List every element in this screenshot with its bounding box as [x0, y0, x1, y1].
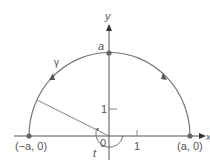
- semicircle-diagram: y x a γ 1 1 0 t (−a, 0) (a, 0): [0, 0, 210, 164]
- origin-label: 0: [100, 137, 106, 149]
- right-point-label: (a, 0): [177, 140, 203, 152]
- curve-label: γ: [54, 57, 59, 68]
- angle-label: t: [93, 147, 97, 159]
- x-tick-label: 1: [134, 140, 140, 152]
- radius-line: [37, 100, 109, 136]
- point-left: [26, 133, 31, 138]
- left-point-label: (−a, 0): [15, 140, 47, 152]
- point-top: [106, 50, 111, 55]
- curve-arrow-left-icon: [49, 73, 55, 80]
- x-axis-label: x: [205, 132, 210, 142]
- top-point-label: a: [98, 40, 104, 52]
- point-right: [187, 133, 192, 138]
- y-axis-label: y: [104, 10, 112, 22]
- y-tick-label: 1: [101, 103, 107, 115]
